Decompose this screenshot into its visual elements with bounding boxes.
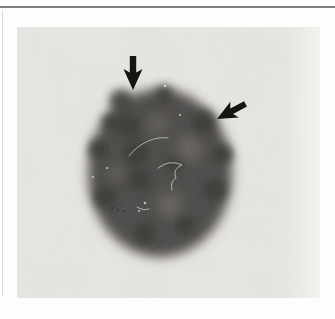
micrograph-svg — [17, 27, 320, 298]
left-edge-line — [2, 10, 3, 296]
micrograph-photo — [17, 27, 320, 298]
page — [0, 0, 335, 319]
photo-edge-light — [17, 27, 320, 298]
top-rule-line — [0, 6, 335, 8]
